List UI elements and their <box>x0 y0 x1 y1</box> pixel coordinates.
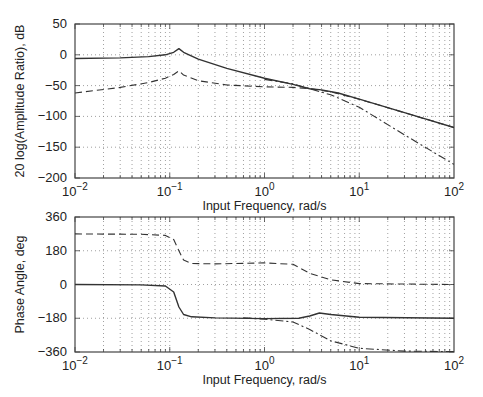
x-tick-label: 100 <box>254 181 274 199</box>
x-tick-label: 10−1 <box>157 181 183 199</box>
y-tick-label: 50 <box>53 16 67 31</box>
y-tick-label: −200 <box>38 170 67 185</box>
x-tick-label: 101 <box>349 181 369 199</box>
x-tick-label: 102 <box>444 355 464 373</box>
x-axis-label: Input Frequency, rad/s <box>202 373 326 387</box>
x-axis-label: Input Frequency, rad/s <box>202 199 326 213</box>
series-dash-dot-line <box>244 318 455 352</box>
phase-plot: 3601800−180−36010−210−1100101102Input Fr… <box>13 209 464 387</box>
x-tick-label: 101 <box>349 355 369 373</box>
y-tick-label: −360 <box>38 344 67 359</box>
magnitude-plot: 500−50−100−150−20010−210−1100101102Input… <box>13 16 464 213</box>
y-tick-label: 180 <box>45 243 67 258</box>
y-tick-label: −150 <box>38 139 67 154</box>
y-axis-label: Phase Angle, deg <box>13 235 27 333</box>
x-tick-label: 100 <box>254 355 274 373</box>
x-tick-label: 10−1 <box>157 355 183 373</box>
y-tick-label: −100 <box>38 108 67 123</box>
grid-lines <box>75 24 454 178</box>
x-tick-label: 10−2 <box>62 355 88 373</box>
x-tick-label: 102 <box>444 181 464 199</box>
y-tick-label: 0 <box>60 47 67 62</box>
y-tick-label: −50 <box>45 78 67 93</box>
y-axis-label: 20 log(Amplitude Ratio), dB <box>13 25 27 178</box>
bode-plot-figure: 500−50−100−150−20010−210−1100101102Input… <box>0 0 483 397</box>
y-tick-label: 360 <box>45 209 67 224</box>
series-dashed-line <box>75 71 454 128</box>
y-tick-label: −180 <box>38 310 67 325</box>
y-tick-label: 0 <box>60 277 67 292</box>
x-tick-label: 10−2 <box>62 181 88 199</box>
